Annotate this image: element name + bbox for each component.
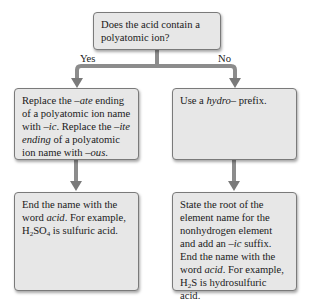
right-step2-box: State the root of the element name for t… <box>172 192 297 291</box>
arrow-yes-icon <box>71 78 83 88</box>
arrow-no-icon <box>229 78 241 88</box>
arrow-left-down-icon <box>70 181 82 191</box>
left-step1-box: Replace the –ate ending of a polyatomic … <box>14 88 139 160</box>
no-label: No <box>218 53 231 64</box>
branch-line <box>77 66 235 80</box>
arrow-right-down-icon <box>228 181 240 191</box>
question-box: Does the acid contain a polyatomic ion? <box>93 12 221 50</box>
yes-label: Yes <box>80 53 95 64</box>
left-step2-box: End the name with the word acid. For exa… <box>14 192 139 291</box>
right-step1-box: Use a hydro– prefix. <box>172 88 297 160</box>
question-text: Does the acid contain a polyatomic ion? <box>101 19 200 43</box>
